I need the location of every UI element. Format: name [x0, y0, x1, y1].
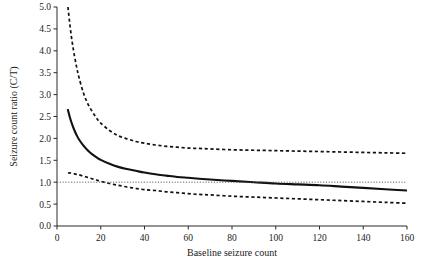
y-tick-label: 4.5 — [39, 24, 51, 34]
x-tick-label: 120 — [312, 233, 327, 243]
curve-solid — [68, 110, 407, 191]
y-tick-label: 1.0 — [39, 178, 51, 188]
y-tick-label: 2.0 — [39, 134, 51, 144]
x-tick-label: 60 — [184, 233, 194, 243]
y-tick-label: 0.0 — [39, 221, 51, 231]
x-tick-label: 100 — [269, 233, 284, 243]
chart-canvas: 0.00.51.01.52.02.53.03.54.04.55.0 020406… — [0, 0, 425, 269]
y-axis-title: Seizure count ratio (C/T) — [8, 66, 20, 166]
y-tick-label: 2.5 — [39, 112, 51, 122]
axes-group — [57, 7, 407, 226]
x-tick-label: 0 — [55, 233, 60, 243]
y-tick-label: 4.0 — [39, 46, 51, 56]
y-tick-label: 0.5 — [39, 200, 51, 210]
curve-dashed — [68, 7, 407, 153]
x-tick-label: 80 — [227, 233, 237, 243]
x-tick-label: 140 — [356, 233, 371, 243]
y-tick-label: 3.5 — [39, 68, 51, 78]
data-curves — [68, 7, 407, 203]
x-tick-label: 160 — [400, 233, 415, 243]
y-tick-label: 1.5 — [39, 156, 51, 166]
x-axis-title: Baseline seizure count — [187, 247, 277, 258]
y-axis-ticks: 0.00.51.01.52.02.53.03.54.04.55.0 — [39, 2, 57, 231]
x-tick-label: 20 — [96, 233, 106, 243]
y-tick-label: 5.0 — [39, 2, 51, 12]
figure-container: 0.00.51.01.52.02.53.03.54.04.55.0 020406… — [0, 0, 425, 269]
y-tick-label: 3.0 — [39, 90, 51, 100]
x-tick-label: 40 — [140, 233, 150, 243]
x-axis-ticks: 020406080100120140160 — [55, 226, 415, 243]
